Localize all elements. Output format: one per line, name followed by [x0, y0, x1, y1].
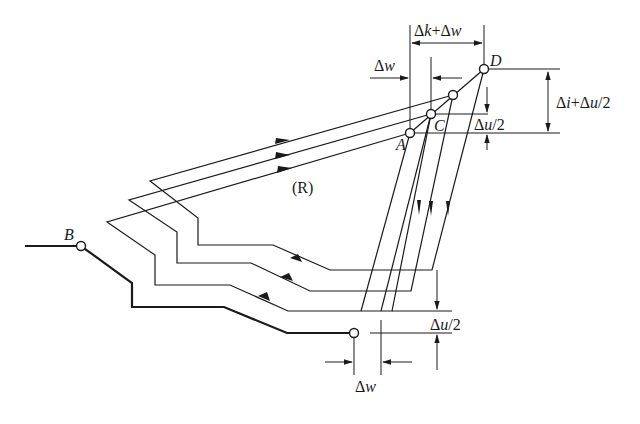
arrow-icon — [275, 152, 290, 159]
point-b — [77, 242, 86, 251]
point-intermediate — [449, 91, 458, 100]
point-end — [350, 329, 359, 338]
roughing-cycle-diagram: D C A B (R) Δk+Δw Δw Δi+Δu/2 Δu/2 Δu/2 Δ… — [0, 0, 640, 424]
region-label: (R) — [292, 179, 313, 197]
point-d — [480, 65, 489, 74]
label-dw-bottom: Δw — [355, 378, 376, 395]
pass-2 — [129, 95, 453, 291]
arrow-icon — [417, 200, 421, 215]
label-dk-plus-dw: Δk+Δw — [414, 22, 462, 39]
arrow-icon — [429, 201, 433, 216]
label-dw-top: Δw — [374, 57, 395, 74]
label-du2-right: Δu/2 — [474, 116, 505, 133]
arrow-icon — [290, 254, 302, 262]
pass-1 — [107, 114, 431, 311]
point-a — [406, 129, 415, 138]
label-d: D — [489, 52, 502, 69]
pass-3 — [150, 69, 484, 270]
label-b: B — [64, 226, 74, 243]
pass-1-descent — [361, 133, 410, 311]
label-du2-bottom: Δu/2 — [430, 316, 461, 333]
label-c: C — [434, 117, 445, 134]
label-di-plus-du2: Δi+Δu/2 — [556, 94, 611, 111]
dimension-right — [414, 69, 560, 150]
arrow-icon — [277, 166, 292, 173]
label-a: A — [395, 136, 406, 153]
